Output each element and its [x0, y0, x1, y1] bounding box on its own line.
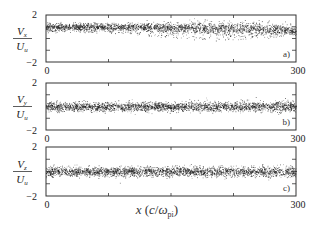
data-point — [158, 174, 159, 175]
data-point — [221, 112, 222, 113]
data-point — [129, 177, 130, 178]
data-point — [58, 111, 59, 112]
data-point — [295, 172, 296, 173]
data-point — [195, 24, 196, 25]
data-point — [111, 31, 112, 32]
data-point — [181, 28, 182, 29]
data-point — [198, 169, 199, 170]
data-point — [62, 107, 63, 108]
data-point — [288, 102, 289, 103]
data-point — [228, 107, 229, 108]
data-point — [160, 110, 161, 111]
data-point — [138, 28, 139, 29]
data-point — [55, 173, 56, 174]
data-point — [248, 168, 249, 169]
data-point — [262, 29, 263, 30]
data-point — [144, 108, 145, 109]
data-point — [154, 109, 155, 110]
data-point — [169, 168, 170, 169]
data-point — [239, 35, 240, 36]
data-point — [245, 177, 246, 178]
data-point — [141, 27, 142, 28]
data-point — [72, 28, 73, 29]
data-point — [181, 103, 182, 104]
data-point — [268, 23, 269, 24]
data-point — [171, 27, 172, 28]
data-point — [223, 23, 224, 24]
data-point — [83, 104, 84, 105]
data-point — [204, 31, 205, 32]
data-point — [150, 169, 151, 170]
data-point — [167, 103, 168, 104]
data-point — [261, 171, 262, 172]
data-point — [66, 105, 67, 106]
data-point — [133, 111, 134, 112]
data-point — [95, 175, 96, 176]
data-point — [172, 107, 173, 108]
data-point — [145, 111, 146, 112]
data-point — [185, 175, 186, 176]
data-point — [291, 109, 292, 110]
data-point — [257, 37, 258, 38]
data-point — [221, 165, 222, 166]
data-point — [99, 28, 100, 29]
data-point — [139, 169, 140, 170]
data-point — [244, 172, 245, 173]
data-point — [89, 29, 90, 30]
data-point — [199, 33, 200, 34]
data-point — [179, 170, 180, 171]
data-point — [239, 29, 240, 30]
data-point — [203, 166, 204, 167]
data-point — [270, 35, 271, 36]
data-point — [61, 108, 62, 109]
data-point — [241, 99, 242, 100]
data-point — [123, 33, 124, 34]
data-point — [247, 101, 248, 102]
data-point — [221, 23, 222, 24]
data-point — [233, 30, 234, 31]
data-point — [54, 107, 55, 108]
data-point — [280, 169, 281, 170]
data-point — [257, 26, 258, 27]
data-point — [229, 105, 230, 106]
data-point — [140, 110, 141, 111]
data-point — [175, 102, 176, 103]
data-point — [150, 175, 151, 176]
data-point — [248, 23, 249, 24]
data-point — [177, 169, 178, 170]
data-point — [282, 175, 283, 176]
data-point — [107, 174, 108, 175]
x-tick-label: 0 — [45, 65, 50, 76]
data-point — [88, 28, 89, 29]
data-point — [278, 30, 279, 31]
data-point — [266, 34, 267, 35]
data-point — [217, 32, 218, 33]
data-point — [83, 31, 84, 32]
data-point — [193, 107, 194, 108]
data-point — [174, 172, 175, 173]
data-point — [126, 110, 127, 111]
data-point — [160, 106, 161, 107]
data-point — [105, 27, 106, 28]
data-point — [102, 105, 103, 106]
data-point — [145, 111, 146, 112]
data-point — [279, 26, 280, 27]
data-point — [70, 30, 71, 31]
data-point — [167, 170, 168, 171]
data-point — [55, 175, 56, 176]
data-point — [54, 25, 55, 26]
data-point — [151, 174, 152, 175]
data-point — [203, 170, 204, 171]
data-point — [182, 174, 183, 175]
data-point — [247, 100, 248, 101]
data-point — [279, 170, 280, 171]
data-point — [80, 107, 81, 108]
data-point — [276, 37, 277, 38]
data-point — [176, 105, 177, 106]
data-point — [166, 170, 167, 171]
data-point — [186, 101, 187, 102]
data-point — [106, 28, 107, 29]
data-point — [184, 165, 185, 166]
data-point — [212, 174, 213, 175]
data-point — [58, 167, 59, 168]
